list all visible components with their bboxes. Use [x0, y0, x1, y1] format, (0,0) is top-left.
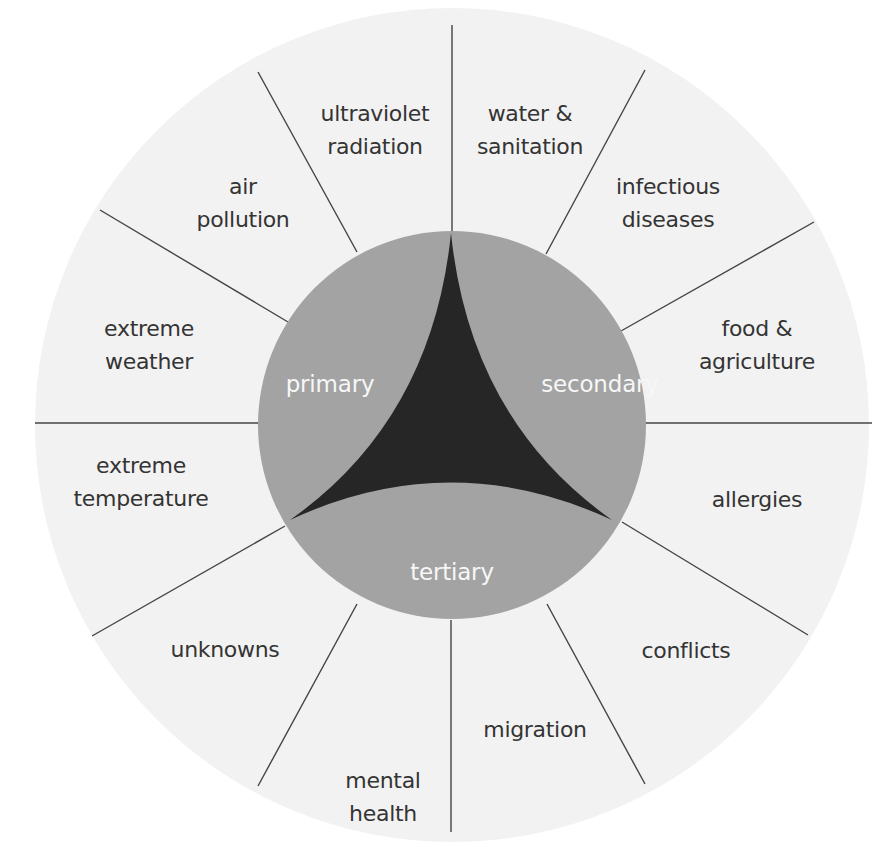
inner-label-primary: primary	[286, 371, 375, 397]
segment-label-line: health	[345, 797, 420, 830]
segment-label-migration: migration	[483, 713, 586, 746]
segment-label-conflicts: conflicts	[642, 634, 731, 667]
segment-label-line: mental	[345, 764, 420, 797]
segment-label-line: extreme	[104, 312, 194, 345]
segment-label-line: radiation	[321, 130, 430, 163]
segment-label-line: food &	[699, 312, 815, 345]
segment-label-unknowns: unknowns	[170, 633, 279, 666]
segment-label-line: infectious	[616, 170, 720, 203]
segment-label-line: unknowns	[170, 633, 279, 666]
segment-label-water-sanitation: water & sanitation	[477, 97, 583, 163]
segment-label-line: water &	[477, 97, 583, 130]
inner-label-secondary: secondary	[541, 371, 658, 397]
segment-label-line: weather	[104, 345, 194, 378]
segment-label-line: extreme	[74, 449, 209, 482]
segment-label-extreme-temperature: extreme temperature	[74, 449, 209, 515]
health-impacts-wheel-diagram	[0, 0, 895, 854]
segment-label-line: ultraviolet	[321, 97, 430, 130]
segment-label-line: air	[196, 170, 289, 203]
segment-label-line: conflicts	[642, 634, 731, 667]
segment-label-extreme-weather: extreme weather	[104, 312, 194, 378]
segment-label-mental-health: mental health	[345, 764, 420, 830]
inner-label-tertiary: tertiary	[410, 559, 494, 585]
segment-label-air-pollution: air pollution	[196, 170, 289, 236]
segment-label-food-agriculture: food & agriculture	[699, 312, 815, 378]
segment-label-line: pollution	[196, 203, 289, 236]
segment-label-allergies: allergies	[712, 483, 802, 516]
segment-label-line: sanitation	[477, 130, 583, 163]
segment-label-line: agriculture	[699, 345, 815, 378]
segment-label-line: migration	[483, 713, 586, 746]
segment-label-line: diseases	[616, 203, 720, 236]
segment-label-ultraviolet-radiation: ultraviolet radiation	[321, 97, 430, 163]
segment-label-line: temperature	[74, 482, 209, 515]
segment-label-line: allergies	[712, 483, 802, 516]
segment-label-infectious-diseases: infectious diseases	[616, 170, 720, 236]
